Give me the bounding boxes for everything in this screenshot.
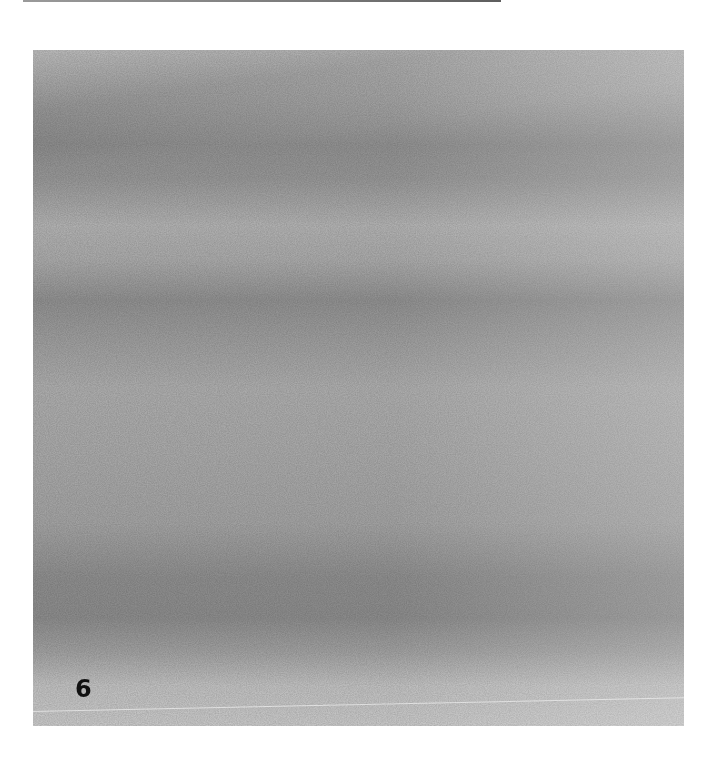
panel-number-label: 6 xyxy=(75,677,92,701)
texture-image-panel: 6 xyxy=(33,50,684,726)
top-edge-strip xyxy=(23,0,501,2)
right-lightening-overlay xyxy=(33,50,684,726)
